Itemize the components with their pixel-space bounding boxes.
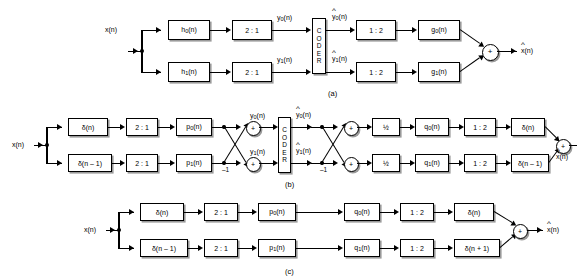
panel-b-y0hat-wire	[291, 127, 307, 128]
panel-c-q0-to-up0-arrow	[394, 209, 399, 215]
block-p1: p1(n)	[258, 239, 296, 257]
label-y1: y1(n)	[277, 56, 292, 65]
block-delta-1-label: δ(n – 1)	[152, 245, 176, 252]
block-g0: g0(n)	[418, 20, 460, 40]
panel-a-h1-arrow	[156, 69, 161, 75]
panel-b-down0-to-p0	[158, 127, 170, 128]
panel-a-y1-wire-arrow	[306, 69, 311, 75]
panel-b-d1-to-down1	[112, 163, 120, 164]
panel-b-y0-wire	[259, 127, 273, 128]
block-upsample-0: 1 : 2	[464, 118, 496, 136]
block-q0: q0(n)	[415, 118, 449, 136]
block-upsample-0-label: 1 : 2	[369, 27, 383, 34]
panel-b-to-half0	[357, 127, 367, 128]
panel-b-delta1-arrow	[57, 160, 62, 166]
block-half-1-label: ½	[383, 160, 389, 167]
panel-c-p1-to-q1	[296, 248, 338, 249]
label-y0: y0(n)	[277, 14, 292, 23]
block-out-delta-1: δ(n – 1)	[511, 154, 549, 172]
coder-letter: O	[316, 35, 321, 43]
label-y0: y0(n)	[250, 112, 265, 121]
panel-a-h0-arrow	[156, 27, 161, 33]
coder-letter: R	[317, 57, 322, 65]
block-p0-label: p0(n)	[269, 208, 285, 217]
panel-b-y1hat-wire	[291, 163, 307, 164]
panel-b-half1-to-q1	[400, 163, 410, 164]
panel-c-up0-to-delta0-arrow	[448, 209, 453, 215]
coder-letter: E	[317, 50, 321, 58]
panel-a-y0-wire-arrow	[306, 27, 311, 33]
label-neg-one-right: –1	[320, 167, 327, 174]
panel-c-delta1-to-sum	[500, 236, 514, 248]
block-upsample-0-label: 1 : 2	[473, 124, 487, 131]
summing-node-a-symbol: +	[488, 48, 493, 56]
block-delta-0-label: δ(n)	[82, 124, 94, 131]
panel-b-to-half1	[357, 163, 367, 164]
block-downsample-1: 2 : 1	[232, 62, 272, 82]
panel-b-half0-to-q0	[400, 127, 410, 128]
panel-c-up1-to-delta1	[434, 248, 448, 249]
panel-c-input-arrow	[110, 227, 115, 233]
block-delta-0: δ(n)	[140, 203, 184, 221]
panel-b-down0-to-p0-arrow	[170, 124, 175, 130]
block-downsample-1-label: 2 : 1	[135, 160, 149, 167]
block-delta-1-label: δ(n – 1)	[78, 160, 102, 167]
panel-c-output-label: x(n)	[547, 226, 559, 233]
block-upsample-0-label: 1 : 2	[410, 209, 424, 216]
block-half-0: ½	[372, 118, 400, 136]
block-downsample-1: 2 : 1	[204, 239, 238, 257]
panel-a-y1hat-wire-arrow	[350, 69, 355, 75]
panel-c-q1-to-up1-arrow	[394, 245, 399, 251]
panel-c: x(n)δ(n)δ(n – 1)2 : 12 : 1p0(n)p1(n)q0(n…	[0, 190, 575, 277]
block-q0: q0(n)	[344, 203, 380, 221]
panel-b-up1-to-delta1	[496, 163, 506, 164]
block-q1-label: q1(n)	[424, 159, 440, 168]
block-downsample-0: 2 : 1	[204, 203, 238, 221]
caption-b: (b)	[285, 181, 294, 189]
block-q1: q1(n)	[344, 239, 380, 257]
coder-letter: O	[282, 134, 287, 142]
panel-b-up0-to-delta0	[496, 127, 506, 128]
block-delta-1: δ(n – 1)	[68, 154, 112, 172]
panel-b-delta0-arrow	[57, 124, 62, 130]
summing-node-b-output-symbol: +	[561, 143, 565, 150]
label-y0-hat: y0(n)	[332, 13, 347, 22]
block-upsample-1: 1 : 2	[400, 239, 434, 257]
block-delta-1: δ(n – 1)	[140, 239, 188, 257]
label-y1-hat: y1(n)	[296, 147, 311, 156]
block-p1: p1(n)	[176, 154, 212, 172]
panel-a-h1-to-down1-arrow	[226, 69, 231, 75]
block-h0-label: h0(n)	[181, 26, 197, 35]
summing-node-b-top-symbol: +	[251, 125, 255, 132]
block-half-0-label: ½	[383, 124, 389, 131]
label-y1-hat: y1(n)	[332, 55, 347, 64]
block-q1: q1(n)	[415, 154, 449, 172]
panel-a-split-vertical	[141, 30, 142, 72]
block-h1-label: h1(n)	[181, 68, 197, 77]
panel-a-y1hat-wire	[326, 72, 350, 73]
panel-c-delta0-arrow	[129, 209, 134, 215]
block-downsample-1: 2 : 1	[126, 154, 158, 172]
block-out-delta-0: δ(n)	[511, 118, 545, 136]
block-downsample-1-label: 2 : 1	[214, 245, 228, 252]
block-upsample-1-label: 1 : 2	[410, 245, 424, 252]
panel-a-y0-wire	[272, 30, 306, 31]
block-p1-label: p1(n)	[269, 244, 285, 253]
panel-a-g0-to-sum	[460, 29, 481, 44]
panel-b-down1-to-p1	[158, 163, 170, 164]
block-downsample-0: 2 : 1	[126, 118, 158, 136]
block-upsample-1-label: 1 : 2	[369, 69, 383, 76]
block-g1-label: g1(n)	[431, 68, 447, 77]
block-downsample-0: 2 : 1	[232, 20, 272, 40]
panel-a-up0-to-g0-arrow	[412, 27, 417, 33]
caption-c: (c)	[285, 268, 294, 276]
panel-a-y0hat-wire	[326, 30, 350, 31]
panel-b-sum-bottom-1-arrow	[236, 160, 241, 166]
panel-a-h0-to-down0	[210, 30, 226, 31]
block-g0-label: g0(n)	[431, 26, 447, 35]
panel-c-down1-to-p1-arrow	[252, 245, 257, 251]
block-upsample-1: 1 : 2	[356, 62, 396, 82]
block-out-delta-0-label: δ(n)	[468, 209, 480, 216]
panel-c-delta1-arrow	[129, 245, 134, 251]
panel-c-q1-to-up1	[380, 248, 394, 249]
